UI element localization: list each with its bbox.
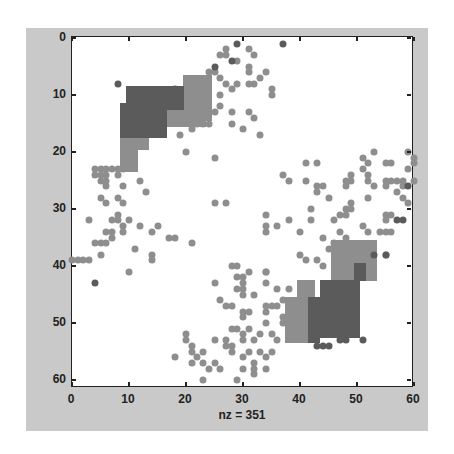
matrix-nonzero-marker <box>97 251 104 258</box>
matrix-nonzero-marker <box>382 217 389 224</box>
matrix-nonzero-marker <box>348 206 355 213</box>
matrix-nonzero-marker <box>302 257 309 264</box>
y-tick <box>72 379 76 381</box>
matrix-nonzero-marker <box>205 120 212 127</box>
matrix-nonzero-marker <box>211 280 218 287</box>
matrix-nonzero-marker <box>177 131 184 138</box>
x-tick-label: 40 <box>292 392 305 406</box>
matrix-nonzero-marker <box>86 257 93 264</box>
matrix-nonzero-marker <box>336 337 343 344</box>
y-tick-label: 30 <box>30 201 66 215</box>
x-tick-top <box>413 37 415 41</box>
matrix-nonzero-marker <box>126 217 133 224</box>
matrix-nonzero-marker <box>319 263 326 270</box>
matrix-nonzero-marker <box>371 251 378 258</box>
matrix-nonzero-marker <box>200 377 207 384</box>
matrix-nonzero-marker <box>234 377 241 384</box>
matrix-nonzero-marker <box>297 228 304 235</box>
matrix-nonzero-marker <box>211 63 218 70</box>
matrix-nonzero-marker <box>222 80 229 87</box>
matrix-nonzero-marker <box>103 200 110 207</box>
matrix-nonzero-marker <box>120 183 127 190</box>
matrix-nonzero-marker <box>382 251 389 258</box>
matrix-nonzero-marker <box>359 166 366 173</box>
y-tick <box>72 37 76 39</box>
matrix-nonzero-marker <box>360 274 367 281</box>
matrix-nonzero-marker <box>257 131 264 138</box>
matrix-nonzero-marker <box>188 359 195 366</box>
matrix-nonzero-marker <box>251 80 258 87</box>
x-tick-top <box>185 37 187 41</box>
matrix-nonzero-marker <box>103 183 110 190</box>
matrix-nonzero-marker <box>114 171 121 178</box>
matrix-nonzero-marker <box>388 228 395 235</box>
matrix-nonzero-marker <box>143 143 150 150</box>
matrix-nonzero-marker <box>148 228 155 235</box>
matrix-nonzero-marker <box>274 302 281 309</box>
y-tick-right <box>407 265 411 267</box>
matrix-nonzero-marker <box>262 365 269 372</box>
y-tick <box>72 94 76 96</box>
matrix-nonzero-marker <box>359 337 366 344</box>
matrix-nonzero-marker <box>211 337 218 344</box>
matrix-nonzero-marker <box>405 166 412 173</box>
matrix-nonzero-marker <box>382 183 389 190</box>
matrix-nonzero-marker <box>405 183 412 190</box>
matrix-nonzero-marker <box>325 245 332 252</box>
matrix-nonzero-marker <box>325 194 332 201</box>
matrix-nonzero-marker <box>342 234 349 241</box>
matrix-nonzero-marker <box>411 177 418 184</box>
matrix-nonzero-marker <box>274 223 281 230</box>
matrix-nonzero-marker <box>319 234 326 241</box>
x-tick <box>71 382 73 386</box>
matrix-nonzero-marker <box>217 92 224 99</box>
matrix-nonzero-marker <box>348 177 355 184</box>
matrix-nonzero-marker <box>120 132 127 139</box>
y-tick-label: 50 <box>30 315 66 329</box>
matrix-nonzero-marker <box>371 149 378 156</box>
matrix-nonzero-marker <box>91 280 98 287</box>
matrix-nonzero-marker <box>314 160 321 167</box>
matrix-nonzero-marker <box>274 337 281 344</box>
y-tick <box>72 322 76 324</box>
y-tick-label: 60 <box>30 372 66 386</box>
matrix-nonzero-marker <box>171 234 178 241</box>
matrix-nonzero-marker <box>262 354 269 361</box>
y-tick-right <box>407 208 411 210</box>
matrix-nonzero-marker <box>160 132 167 139</box>
matrix-nonzero-marker <box>217 365 224 372</box>
x-axis-label: nz = 351 <box>0 408 454 422</box>
matrix-nonzero-marker <box>251 371 258 378</box>
x-tick-label: 60 <box>406 392 419 406</box>
matrix-nonzero-marker <box>234 40 241 47</box>
matrix-nonzero-marker <box>262 308 269 315</box>
x-tick-top <box>299 37 301 41</box>
matrix-nonzero-marker <box>240 126 247 133</box>
x-tick-label: 50 <box>349 392 362 406</box>
x-tick <box>299 382 301 386</box>
y-tick-label: 10 <box>30 87 66 101</box>
matrix-nonzero-marker <box>222 200 229 207</box>
matrix-nonzero-marker <box>268 92 275 99</box>
matrix-nonzero-marker <box>342 211 349 218</box>
matrix-nonzero-marker <box>228 302 235 309</box>
matrix-nonzero-marker <box>200 348 207 355</box>
matrix-nonzero-marker <box>268 348 275 355</box>
matrix-nonzero-marker <box>131 245 138 252</box>
plot-area <box>71 36 413 387</box>
matrix-nonzero-marker <box>399 217 406 224</box>
y-tick-right <box>407 379 411 381</box>
matrix-nonzero-marker <box>297 302 304 309</box>
matrix-nonzero-marker <box>388 160 395 167</box>
matrix-nonzero-marker <box>365 160 372 167</box>
matrix-nonzero-marker <box>251 291 258 298</box>
matrix-nonzero-marker <box>217 103 224 110</box>
matrix-nonzero-marker <box>240 354 247 361</box>
matrix-nonzero-marker <box>245 348 252 355</box>
y-tick-label: 0 <box>30 30 66 44</box>
matrix-nonzero-marker <box>257 74 264 81</box>
matrix-nonzero-marker <box>314 188 321 195</box>
x-tick-label: 30 <box>235 392 248 406</box>
matrix-nonzero-marker <box>262 211 269 218</box>
matrix-nonzero-marker <box>285 285 292 292</box>
